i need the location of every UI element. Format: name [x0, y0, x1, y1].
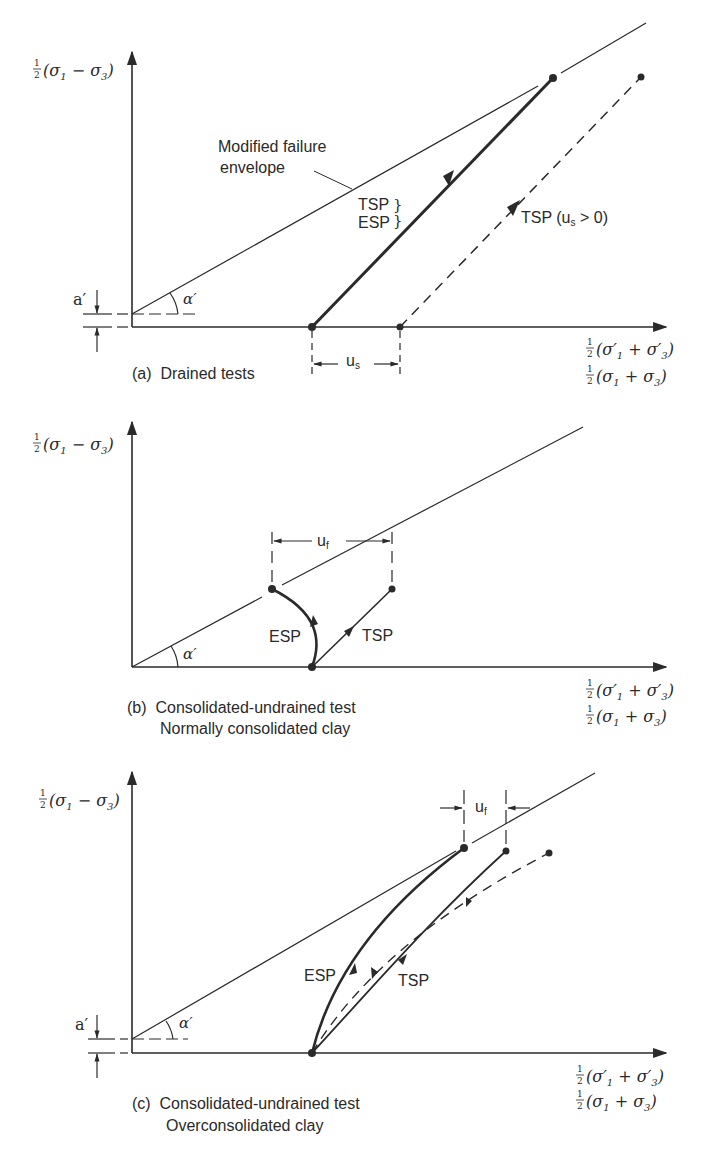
tsp-failure-point: [503, 848, 510, 855]
x-axis-label-total: 1 2 (σ1 + σ3): [586, 364, 667, 388]
panel-c-cu-overconsolidated: 1 2 (σ1 − σ3) ESP TSP a′: [39, 772, 666, 1134]
dimension-label: us: [346, 352, 360, 371]
tsp-failure-point: [389, 586, 396, 593]
svg-text:1: 1: [587, 704, 593, 714]
dashed-stress-path: [312, 853, 549, 1053]
envelope-label-line1: Modified failure: [218, 138, 327, 155]
svg-text:2: 2: [34, 70, 40, 80]
svg-text:1: 1: [577, 1064, 583, 1074]
svg-text:(σ1 + σ3): (σ1 + σ3): [596, 367, 667, 388]
svg-text:(σ1 − σ3): (σ1 − σ3): [49, 791, 120, 812]
svg-text:1: 1: [34, 432, 40, 442]
angle-arc: [171, 646, 178, 667]
intercept-label: a′: [73, 290, 87, 309]
end-point: [638, 74, 645, 81]
svg-text:(σ1 − σ3): (σ1 − σ3): [43, 61, 114, 82]
failure-envelope: [132, 597, 262, 667]
panel-c-caption-line1: (c) Consolidated-undrained test: [132, 1095, 360, 1112]
esp-path: [312, 848, 464, 1053]
x-axis-label-effective: 1 2 (σ′1 + σ′3): [576, 1064, 664, 1088]
envelope-label-line2: envelope: [220, 159, 285, 176]
svg-text:2: 2: [587, 376, 593, 386]
tsp-dashed-path: [400, 77, 641, 327]
failure-envelope-upper: [472, 773, 595, 843]
panel-b-caption-line1: (b) Consolidated-undrained test: [127, 699, 356, 716]
panel-c-caption-line2: Overconsolidated clay: [166, 1117, 323, 1134]
svg-text:1: 1: [587, 337, 593, 347]
svg-text:2: 2: [40, 800, 46, 810]
start-point: [308, 1049, 316, 1057]
path-direction-arrow-icon: [398, 954, 407, 965]
svg-text:2: 2: [577, 1076, 583, 1086]
angle-label: α′: [179, 1014, 193, 1032]
x-axis-label-effective: 1 2 (σ′1 + σ′3): [586, 678, 674, 702]
tsp-path: [312, 851, 506, 1053]
panel-a-caption: (a) Drained tests: [132, 365, 255, 382]
x-axis-label-total: 1 2 (σ1 + σ3): [586, 704, 667, 728]
modified-failure-envelope: [132, 86, 538, 314]
svg-text:1: 1: [40, 788, 46, 798]
esp-label: ESP: [269, 628, 301, 645]
svg-text:1: 1: [587, 364, 593, 374]
esp-failure-point: [268, 585, 276, 593]
svg-text:(σ′1 + σ′3): (σ′1 + σ′3): [596, 340, 674, 361]
svg-text:(σ′1 + σ′3): (σ′1 + σ′3): [596, 681, 674, 702]
envelope-leader-line: [314, 171, 352, 189]
panel-b-caption-line2: Normally consolidated clay: [160, 720, 350, 737]
svg-text:2: 2: [587, 690, 593, 700]
svg-text:2: 2: [577, 1101, 583, 1111]
panel-b-cu-normally-consolidated: 1 2 (σ1 − σ3) ESP TSP α′ uf 1 2: [33, 422, 674, 737]
failure-envelope-upper: [282, 427, 583, 585]
failure-point: [549, 74, 557, 82]
brace-icon: }: [393, 212, 403, 230]
intercept-label: a′: [75, 1015, 89, 1034]
dashed-end-point: [546, 850, 553, 857]
start-point: [308, 323, 316, 331]
tsp-label: TSP: [358, 196, 389, 213]
esp-label: ESP: [358, 214, 390, 231]
svg-text:1: 1: [587, 678, 593, 688]
panel-a-drained-tests: 1 2 (σ1 − σ3) Modified failure envelope …: [33, 23, 674, 388]
tsp-us-label: TSP (us > 0): [521, 209, 608, 228]
angle-arc: [166, 1021, 173, 1039]
svg-text:(σ1 − σ3): (σ1 − σ3): [43, 435, 114, 456]
y-axis-label: 1 2 (σ1 − σ3): [39, 788, 120, 812]
svg-text:(σ1 + σ3): (σ1 + σ3): [596, 707, 667, 728]
svg-text:2: 2: [34, 444, 40, 454]
tsp-label: TSP: [398, 972, 429, 989]
angle-label: α′: [183, 290, 197, 308]
x-axis-label-effective: 1 2 (σ′1 + σ′3): [586, 337, 674, 361]
tsp-label: TSP: [362, 627, 393, 644]
svg-text:(σ′1 + σ′3): (σ′1 + σ′3): [586, 1067, 664, 1088]
modified-failure-envelope-upper: [561, 23, 646, 73]
start-point: [397, 324, 404, 331]
svg-text:2: 2: [587, 349, 593, 359]
x-axis-label-total: 1 2 (σ1 + σ3): [576, 1089, 657, 1113]
esp-failure-point: [460, 844, 468, 852]
y-axis-label: 1 2 (σ1 − σ3): [33, 58, 114, 82]
esp-label: ESP: [304, 967, 336, 984]
start-point: [308, 663, 316, 671]
angle-arc: [170, 293, 178, 314]
svg-text:1: 1: [34, 58, 40, 68]
y-axis-label: 1 2 (σ1 − σ3): [33, 432, 114, 456]
dimension-label: uf: [475, 798, 487, 817]
dimension-label: uf: [317, 532, 329, 551]
path-direction-arrow-icon: [371, 967, 378, 979]
svg-text:2: 2: [587, 716, 593, 726]
angle-label: α′: [183, 645, 197, 663]
svg-text:(σ1 + σ3): (σ1 + σ3): [586, 1092, 657, 1113]
stress-path-figure: 1 2 (σ1 − σ3) Modified failure envelope …: [0, 0, 702, 1154]
svg-text:1: 1: [577, 1089, 583, 1099]
